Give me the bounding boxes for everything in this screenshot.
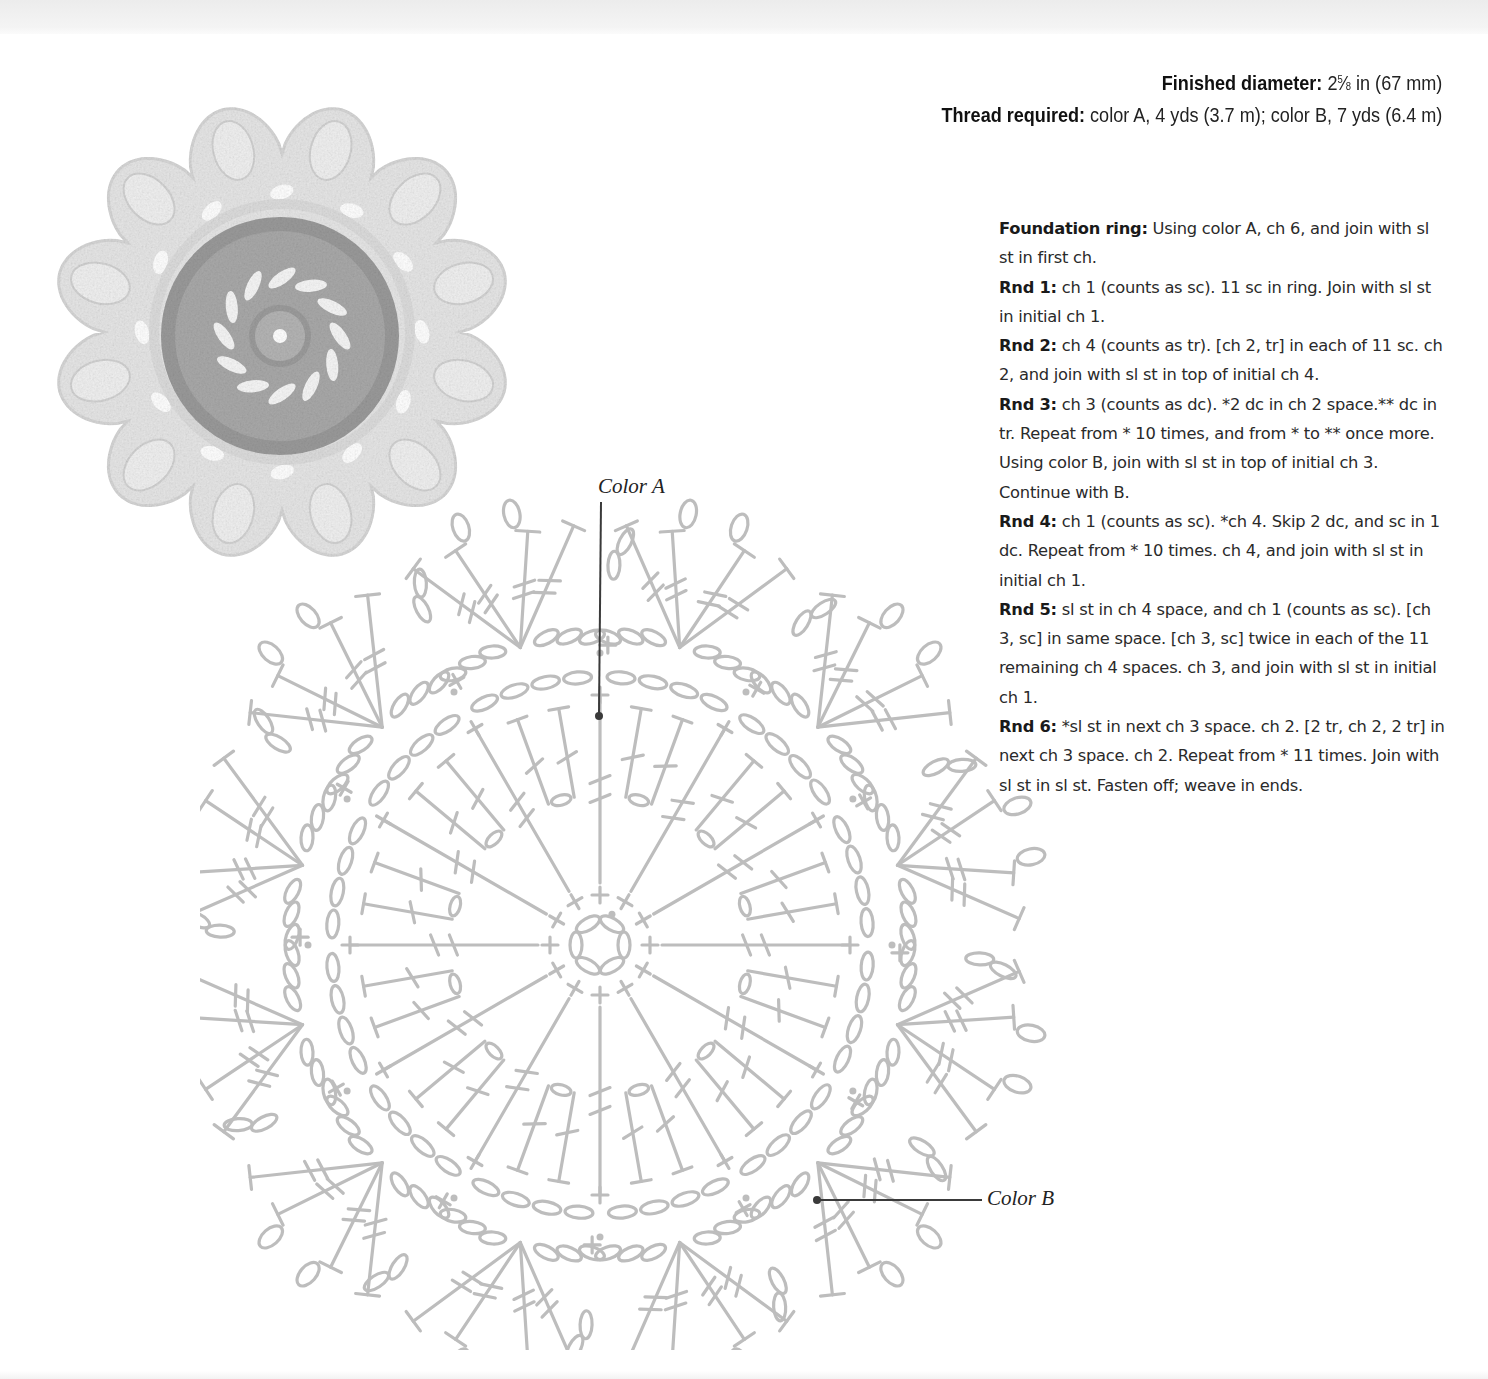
thread-required: Thread required: color A, 4 yds (3.7 m);… [941, 97, 1442, 132]
thread-required-label: Thread required: [941, 103, 1085, 126]
callout-color-b: Color B [987, 1186, 1054, 1211]
finished-diameter-label: Finished diameter: [1161, 71, 1322, 94]
step-rnd-2: Rnd 2: ch 4 (counts as tr). [ch 2, tr] i… [999, 331, 1445, 390]
finished-diameter: Finished diameter: 25⁄8 in (67 mm) [941, 62, 1442, 97]
pattern-specs: Finished diameter: 25⁄8 in (67 mm) Threa… [941, 62, 1442, 132]
finished-diameter-value: 25⁄8 in (67 mm) [1327, 71, 1442, 94]
page-top-band [0, 0, 1488, 34]
step-foundation-ring: Foundation ring: Using color A, ch 6, an… [999, 214, 1445, 273]
step-rnd-1: Rnd 1: ch 1 (counts as sc). 11 sc in rin… [999, 273, 1445, 332]
page-bottom-band [0, 1371, 1488, 1379]
callout-color-a: Color A [598, 474, 665, 499]
thread-required-value: color A, 4 yds (3.7 m); color B, 7 yds (… [1085, 103, 1442, 126]
stitch-chart [200, 470, 1100, 1350]
